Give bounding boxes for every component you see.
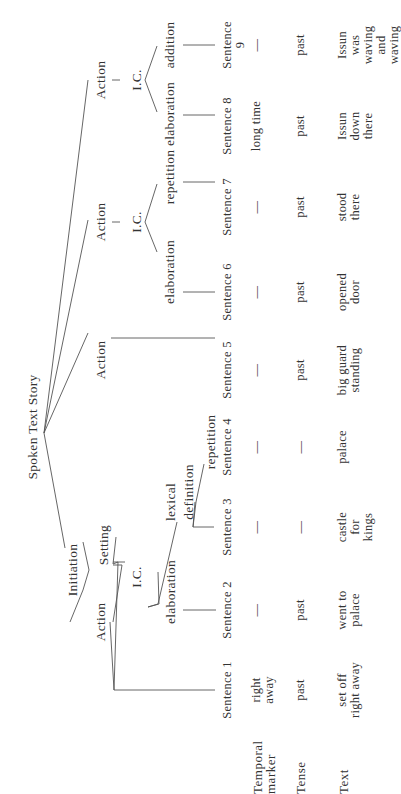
tense-value: — [294, 521, 307, 534]
action-mid-repetition-node-label: repetition [163, 150, 177, 205]
action-top-node-label: Action [94, 61, 108, 100]
sentence-label: Sentence 2 [221, 581, 234, 639]
temporal-marker-value: — [250, 521, 263, 534]
temporal-marker-value: — [250, 201, 263, 214]
root-node-label: Spoken Text Story [26, 374, 40, 479]
temporal-marker-value: — [250, 441, 263, 454]
sentence-label: Sentence 9 [221, 21, 247, 69]
initiation-action-node-label: Action [94, 603, 108, 642]
text-value: big guard standing [336, 345, 362, 395]
sentence-label: Sentence 8 [221, 97, 234, 155]
sentence-label: Sentence 1 [221, 661, 234, 719]
sentence-label: Sentence 3 [221, 498, 234, 556]
row-label-tense: Tense [294, 734, 307, 794]
tense-value: past [294, 599, 307, 620]
text-value: opened door [336, 273, 362, 311]
text-value: went to palace [336, 590, 362, 629]
sentence-label: Sentence 5 [221, 341, 234, 399]
setting-elaboration-node-label: elaboration [164, 560, 178, 624]
lexical-definition-line2: definition [182, 464, 196, 520]
row-label-text: Text [337, 734, 350, 794]
text-value: palace [336, 430, 349, 464]
tense-value: past [294, 196, 307, 217]
tense-value: past [294, 359, 307, 380]
sentence-label: Sentence 6 [221, 263, 234, 321]
setting-ic-node-label: I.C. [130, 566, 144, 587]
tense-value: past [294, 34, 307, 55]
setting-node-label: Setting [97, 525, 111, 565]
text-value: set off right away [336, 662, 362, 718]
text-value: stood there [336, 193, 362, 222]
repetition-s4-node-label: repetition [204, 415, 218, 470]
sentence-label: Sentence 7 [221, 178, 234, 236]
action-s5-node-label: Action [94, 341, 108, 380]
action-top-addition-node-label: addition [163, 22, 177, 69]
temporal-marker-value: — [250, 364, 263, 377]
row-label-temporal-marker: Temporal marker [251, 734, 277, 794]
tense-value: — [294, 441, 307, 454]
text-value: Issun down there [336, 112, 375, 141]
temporal-marker-value: — [250, 286, 263, 299]
action-mid-node-label: Action [94, 203, 108, 242]
action-mid-elaboration-node-label: elaboration [163, 240, 177, 304]
initiation-node-label: Initiation [66, 544, 80, 597]
tense-value: past [294, 281, 307, 302]
text-value: castle for kings [336, 512, 375, 542]
temporal-marker-value: long time [250, 101, 263, 151]
action-top-ic-node-label: I.C. [130, 69, 144, 90]
lexical-definition-line1: lexical [164, 483, 178, 521]
action-top-elaboration-node-label: elaboration [163, 82, 177, 146]
temporal-marker-value: — [250, 604, 263, 617]
temporal-marker-value: right away [250, 676, 276, 704]
text-value: Issun was waving and waving [336, 23, 401, 68]
tense-value: past [294, 679, 307, 700]
tense-value: past [294, 115, 307, 136]
temporal-marker-value: — [250, 39, 263, 52]
sentence-label: Sentence 4 [221, 418, 234, 476]
action-mid-ic-node-label: I.C. [130, 211, 144, 232]
